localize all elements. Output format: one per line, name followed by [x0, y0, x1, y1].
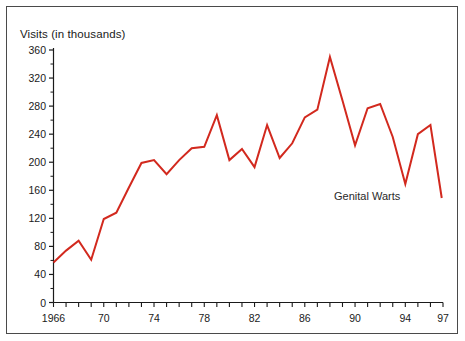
y-tick-label: 200: [12, 156, 46, 168]
y-tick-label: 360: [12, 44, 46, 56]
y-tick-label: 0: [12, 297, 46, 309]
x-tick-label: 74: [148, 312, 160, 324]
x-tick-label: 90: [349, 312, 361, 324]
y-tick-label: 160: [12, 184, 46, 196]
y-tick-label: 320: [12, 72, 46, 84]
y-tick-label: 120: [12, 212, 46, 224]
axes-group: [49, 48, 443, 307]
y-tick-label: 80: [12, 240, 46, 252]
x-tick-label: 94: [399, 312, 411, 324]
data-line-genital-warts: [54, 57, 442, 263]
x-tick-label: 1966: [42, 312, 65, 324]
data-series-group: [54, 57, 442, 263]
x-tick-label: 82: [249, 312, 261, 324]
x-tick-label: 78: [198, 312, 210, 324]
chart-figure: Visits (in thousands) Genital Warts 0408…: [0, 0, 465, 341]
x-tick-label: 86: [299, 312, 311, 324]
x-tick-label: 97: [437, 312, 449, 324]
chart-plot-area: [0, 0, 465, 341]
y-tick-label: 280: [12, 100, 46, 112]
x-tick-label: 70: [98, 312, 110, 324]
y-tick-label: 240: [12, 128, 46, 140]
y-tick-label: 40: [12, 268, 46, 280]
